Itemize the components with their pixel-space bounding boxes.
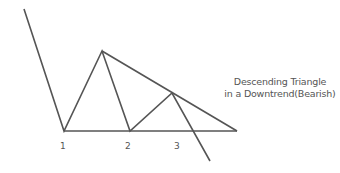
pattern-title: Descending Triangle in a Downtrend(Beari… (220, 76, 340, 100)
price-path (24, 9, 210, 161)
title-line-2: in a Downtrend(Bearish) (220, 88, 340, 100)
point-label-3: 3 (174, 141, 180, 151)
point-label-1: 1 (60, 141, 66, 151)
title-line-1: Descending Triangle (220, 76, 340, 88)
resistance-line (102, 51, 237, 131)
point-label-2: 2 (125, 141, 131, 151)
